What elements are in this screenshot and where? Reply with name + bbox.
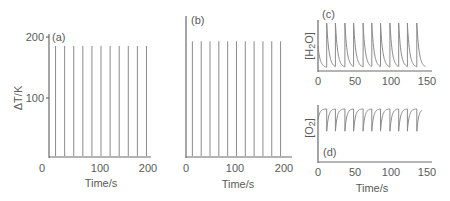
panel-a-ylabel: ΔT/K: [12, 85, 24, 110]
panel-d-xtick-100: 100: [382, 166, 400, 178]
panel-c-xtick-0: 0: [315, 75, 321, 87]
panel-c: (c) [H2O] 0 50 100 150: [303, 8, 436, 87]
panel-a: (a) 200 100 ΔT/K 0 100 200 Time/s: [12, 31, 157, 189]
panel-d-xtick-50: 50: [349, 166, 361, 178]
panel-a-xlabel: Time/s: [85, 177, 118, 189]
panel-c-ylabel: [H2O]: [303, 32, 317, 60]
panel-c-trace: [318, 23, 426, 67]
panel-b-trace: [192, 41, 280, 156]
panel-c-xtick-100: 100: [382, 75, 400, 87]
panel-b-label: (b): [191, 14, 204, 26]
panel-b-xtick-0: 0: [183, 162, 189, 174]
panel-d-label: (d): [323, 146, 336, 158]
figure: (a) 200 100 ΔT/K 0 100 200 Time/s (b) 0 …: [0, 0, 450, 201]
panel-d: (d) [O2] 0 50 100 150 Time/s: [303, 105, 436, 194]
panel-b-xlabel: Time/s: [222, 178, 255, 190]
panel-a-label: (a): [52, 31, 65, 43]
panel-a-ytick-100: 100: [26, 92, 44, 104]
panel-a-xtick-100: 100: [91, 162, 109, 174]
panel-a-trace: [56, 46, 147, 156]
panel-a-xtick-200: 200: [139, 162, 157, 174]
panel-b-xtick-100: 100: [226, 162, 244, 174]
panel-c-xtick-50: 50: [349, 75, 361, 87]
panel-c-label: (c): [322, 8, 335, 20]
panel-a-ytick-200: 200: [26, 31, 44, 43]
panel-b-xtick-200: 200: [275, 162, 293, 174]
panel-d-xtick-0: 0: [315, 166, 321, 178]
panel-a-xtick-0: 0: [39, 162, 45, 174]
panel-d-ylabel: [O2]: [303, 118, 317, 138]
panel-d-xlabel: Time/s: [356, 182, 389, 194]
panel-d-trace: [318, 109, 422, 131]
panel-b: (b) 0 100 200 Time/s: [183, 14, 293, 190]
panel-c-xtick-150: 150: [418, 75, 436, 87]
panel-d-xtick-150: 150: [418, 166, 436, 178]
